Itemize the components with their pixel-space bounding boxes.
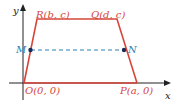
point-O-label: O(0, 0) bbox=[25, 86, 60, 96]
x-axis-label: x bbox=[165, 91, 171, 101]
point-M-label: M bbox=[16, 45, 26, 55]
y-axis-label: y bbox=[13, 6, 19, 16]
point-M-dot bbox=[28, 48, 32, 52]
x-axis-arrow-icon bbox=[164, 80, 171, 86]
point-R-label: R(b, c) bbox=[36, 10, 70, 20]
y-axis-arrow-icon bbox=[20, 4, 26, 11]
point-Q-label: Q(d, c) bbox=[91, 10, 125, 20]
point-N-dot bbox=[122, 48, 126, 52]
trapezoid-ORQP bbox=[24, 19, 137, 83]
point-P-label: P(a, 0) bbox=[120, 86, 153, 96]
point-N-label: N bbox=[128, 45, 137, 55]
